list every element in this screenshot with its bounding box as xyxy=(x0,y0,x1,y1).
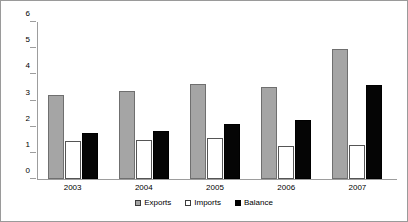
bar-balance-2004 xyxy=(153,131,169,179)
y-axis-tick-label: 4 xyxy=(12,62,30,70)
x-axis-label-2007: 2007 xyxy=(322,183,393,192)
bar-exports-2005 xyxy=(190,84,206,180)
bar-exports-2007 xyxy=(332,49,348,179)
y-axis-tick-label: 5 xyxy=(12,36,30,44)
legend-swatch-imports-icon xyxy=(185,200,191,206)
bar-exports-2004 xyxy=(119,91,135,179)
legend-item-balance[interactable]: Balance xyxy=(235,198,273,207)
legend-item-imports[interactable]: Imports xyxy=(185,198,221,207)
legend-label: Exports xyxy=(144,198,171,207)
y-axis-tick-label: 6 xyxy=(12,10,30,18)
chart-figure: 0123456 20032004200520062007 ExportsImpo… xyxy=(0,0,408,222)
bar-exports-2003 xyxy=(48,95,64,179)
bar-group xyxy=(261,22,311,179)
bar-balance-2003 xyxy=(82,133,98,179)
bar-balance-2005 xyxy=(224,124,240,179)
bar-group xyxy=(119,22,169,179)
chart-legend: ExportsImportsBalance xyxy=(1,198,407,207)
plot-area: 0123456 xyxy=(37,22,393,179)
legend-item-exports[interactable]: Exports xyxy=(135,198,171,207)
bar-balance-2007 xyxy=(366,85,382,179)
legend-swatch-balance-icon xyxy=(235,200,241,206)
x-axis-label-2003: 2003 xyxy=(37,183,108,192)
y-axis-tick xyxy=(30,21,36,22)
x-axis-line xyxy=(37,179,397,180)
bar-balance-2006 xyxy=(295,120,311,179)
y-axis-tick xyxy=(30,152,36,153)
bar-exports-2006 xyxy=(261,87,277,179)
bar-imports-2006 xyxy=(278,146,294,179)
legend-label: Imports xyxy=(194,198,221,207)
y-axis-tick-label: 0 xyxy=(12,167,30,175)
y-axis-tick xyxy=(30,73,36,74)
bar-group xyxy=(332,22,382,179)
x-axis-label-2005: 2005 xyxy=(179,183,250,192)
legend-swatch-exports-icon xyxy=(135,200,141,206)
x-axis-label-2006: 2006 xyxy=(251,183,322,192)
y-axis-tick xyxy=(30,47,36,48)
y-axis-tick xyxy=(30,178,36,179)
y-axis-tick xyxy=(30,126,36,127)
bar-group xyxy=(190,22,240,179)
y-axis-tick-label: 2 xyxy=(12,115,30,123)
bar-imports-2004 xyxy=(136,140,152,179)
bar-group xyxy=(48,22,98,179)
y-axis-tick xyxy=(30,100,36,101)
bar-imports-2003 xyxy=(65,141,81,179)
y-axis-tick-label: 1 xyxy=(12,141,30,149)
bar-imports-2005 xyxy=(207,138,223,179)
legend-label: Balance xyxy=(244,198,273,207)
bar-imports-2007 xyxy=(349,145,365,179)
x-axis-label-2004: 2004 xyxy=(108,183,179,192)
y-axis-tick-label: 3 xyxy=(12,89,30,97)
